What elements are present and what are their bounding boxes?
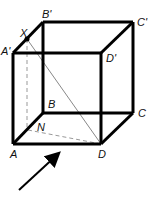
label-b: B [48, 98, 55, 110]
edge-d-c [101, 113, 133, 144]
label-x: X [19, 27, 28, 39]
label-a: A [9, 148, 17, 160]
label-c: C [138, 107, 146, 119]
label-b1: B' [42, 8, 52, 20]
view-arrow [19, 154, 58, 190]
label-a1: A' [0, 45, 11, 57]
cube-diagram: A B C D A' B' C' D' X N [0, 0, 154, 204]
label-c1: C' [137, 16, 148, 28]
label-d1: D' [106, 52, 117, 64]
label-d: D [98, 148, 106, 160]
label-n: N [37, 121, 45, 133]
edge-c1-d1 [101, 22, 133, 53]
